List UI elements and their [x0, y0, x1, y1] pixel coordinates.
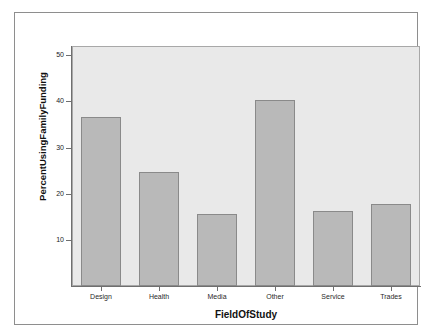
- y-tick-mark: [66, 55, 71, 56]
- bar-other: [255, 100, 296, 286]
- y-tick-label: 10: [24, 236, 64, 243]
- x-tick-label: Media: [188, 293, 246, 300]
- x-tick-mark: [391, 287, 392, 291]
- x-axis-title: FieldOfStudy: [72, 309, 420, 320]
- x-tick-label: Service: [304, 293, 362, 300]
- x-tick-mark: [217, 287, 218, 291]
- bar-design: [81, 117, 122, 286]
- y-tick-mark: [66, 240, 71, 241]
- bar-health: [139, 172, 180, 286]
- chart-frame: 1020304050 DesignHealthMediaOtherService…: [14, 12, 418, 325]
- bar-media: [197, 214, 238, 286]
- x-tick-label: Design: [72, 293, 130, 300]
- y-axis-title: PercentUsingFamilyFunding: [37, 47, 48, 227]
- x-tick-mark: [101, 287, 102, 291]
- x-tick-mark: [159, 287, 160, 291]
- y-tick-mark: [66, 101, 71, 102]
- x-tick-mark: [333, 287, 334, 291]
- y-axis-line: [71, 46, 72, 287]
- y-tick-mark: [66, 148, 71, 149]
- y-tick-mark: [66, 194, 71, 195]
- bar-trades: [371, 204, 412, 286]
- x-tick-mark: [275, 287, 276, 291]
- bar-service: [313, 211, 354, 286]
- x-tick-label: Health: [130, 293, 188, 300]
- x-tick-label: Trades: [362, 293, 420, 300]
- y-tick-label-wrap: 10: [20, 240, 64, 241]
- x-axis-line: [71, 286, 421, 287]
- plot-area: [72, 46, 420, 286]
- x-tick-label: Other: [246, 293, 304, 300]
